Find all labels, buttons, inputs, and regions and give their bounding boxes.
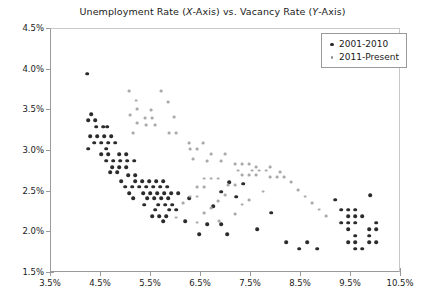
data-point — [346, 214, 350, 218]
data-point — [205, 222, 209, 226]
data-point — [255, 174, 258, 177]
data-point — [265, 169, 268, 172]
x-axis-tick-label: 5.5% — [127, 278, 173, 288]
data-point — [117, 152, 121, 156]
x-axis-tick-label: 10.5% — [377, 278, 423, 288]
data-point — [151, 117, 154, 120]
data-point — [196, 221, 199, 224]
data-point — [297, 247, 301, 251]
data-point — [86, 118, 90, 122]
data-point — [148, 191, 152, 195]
data-point — [88, 135, 92, 139]
data-point — [136, 107, 139, 110]
data-point — [175, 216, 178, 219]
data-point — [346, 221, 350, 225]
data-point — [367, 234, 371, 238]
data-point — [367, 240, 371, 244]
data-point — [173, 115, 176, 118]
data-point — [144, 185, 148, 189]
chart-title-post: -Axis) — [318, 6, 345, 17]
data-point — [346, 227, 350, 231]
data-point — [196, 185, 199, 188]
data-point — [142, 203, 146, 207]
data-point — [125, 159, 129, 163]
data-point — [283, 176, 286, 179]
x-axis-tick-label: 7.5% — [227, 278, 273, 288]
data-point — [325, 215, 328, 218]
x-axis-tick-label: 8.5% — [277, 278, 323, 288]
data-point — [217, 200, 220, 203]
data-point — [210, 153, 213, 156]
legend-item-label: 2011-Present — [339, 52, 399, 62]
data-point — [161, 219, 165, 223]
data-point — [95, 135, 99, 139]
data-point — [284, 240, 288, 244]
data-point — [133, 179, 137, 183]
data-point — [152, 196, 156, 200]
data-point — [241, 203, 244, 206]
data-point — [118, 159, 122, 163]
data-point — [203, 185, 206, 188]
data-point — [129, 114, 132, 117]
data-point — [224, 153, 227, 156]
data-point — [131, 196, 135, 200]
data-point — [182, 202, 185, 205]
data-point — [269, 176, 272, 179]
data-point — [346, 240, 350, 244]
data-point — [353, 247, 357, 251]
data-point — [135, 99, 138, 102]
data-point — [206, 159, 209, 162]
data-point — [192, 158, 195, 161]
data-point — [117, 165, 121, 169]
x-axis-tick-label: 4.5% — [77, 278, 123, 288]
data-point — [202, 141, 205, 144]
data-point — [248, 198, 251, 201]
data-point — [104, 147, 108, 151]
data-point — [137, 185, 141, 189]
data-point — [224, 194, 227, 197]
data-point — [374, 227, 378, 231]
data-point — [147, 179, 151, 183]
data-point — [153, 208, 157, 212]
data-point — [111, 159, 115, 163]
data-point — [234, 213, 237, 216]
data-point — [115, 170, 119, 174]
data-point — [167, 101, 170, 104]
data-point — [144, 117, 147, 120]
data-point — [165, 185, 169, 189]
legend-item[interactable]: 2011-Present — [327, 50, 399, 63]
data-point — [290, 181, 293, 184]
data-point — [311, 202, 314, 205]
data-point — [353, 234, 357, 238]
data-point — [368, 193, 372, 197]
data-point — [167, 208, 171, 212]
chart-title-x-italic: X — [186, 6, 193, 17]
data-point — [241, 174, 244, 177]
data-point — [119, 179, 123, 183]
data-point — [106, 141, 110, 145]
y-axis-tick-label: 1.5% — [4, 267, 44, 277]
legend-marker-icon — [327, 47, 337, 66]
data-point — [132, 159, 136, 163]
data-point — [255, 166, 258, 169]
data-point — [126, 174, 130, 178]
data-point — [189, 148, 192, 151]
legend-item-label: 2001-2010 — [339, 39, 388, 49]
data-point — [220, 159, 223, 162]
chart-title-pre: Unemployment Rate ( — [79, 6, 185, 17]
data-point — [102, 135, 106, 139]
data-point — [123, 185, 127, 189]
data-point — [150, 214, 154, 218]
data-point — [155, 191, 159, 195]
legend-item[interactable]: 2001-2010 — [327, 37, 399, 50]
data-point — [151, 185, 155, 189]
data-point — [188, 141, 191, 144]
data-point — [128, 89, 131, 92]
data-point — [353, 208, 357, 212]
data-point — [218, 220, 221, 223]
chart-title: Unemployment Rate (X-Axis) vs. Vacancy R… — [0, 6, 425, 17]
data-point — [174, 208, 178, 212]
data-point — [248, 174, 251, 177]
data-point — [159, 196, 163, 200]
data-point — [269, 211, 273, 215]
